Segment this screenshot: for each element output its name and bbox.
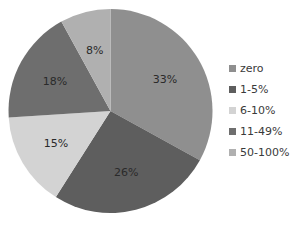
legend-label: zero xyxy=(240,62,264,75)
legend-item-11-49: 11-49% xyxy=(229,121,289,142)
slice-percent-label: 8% xyxy=(86,44,103,57)
legend-item-6-10: 6-10% xyxy=(229,100,289,121)
legend-swatch xyxy=(229,149,236,156)
slice-percent-label: 15% xyxy=(44,137,68,150)
slice-percent-label: 26% xyxy=(114,166,138,179)
legend-swatch xyxy=(229,86,236,93)
legend-swatch xyxy=(229,107,236,114)
legend-swatch xyxy=(229,128,236,135)
legend-label: 1-5% xyxy=(240,83,268,96)
legend-swatch xyxy=(229,65,236,72)
pie-slices xyxy=(9,9,213,213)
legend-item-50-100: 50-100% xyxy=(229,142,289,163)
slice-percent-label: 18% xyxy=(43,75,67,88)
chart-legend: zero 1-5% 6-10% 11-49% 50-100% xyxy=(229,58,289,163)
pie-chart: 33%26%15%18%8% xyxy=(0,0,225,225)
legend-item-1-5: 1-5% xyxy=(229,79,289,100)
legend-label: 11-49% xyxy=(240,125,282,138)
legend-label: 50-100% xyxy=(240,146,289,159)
legend-item-zero: zero xyxy=(229,58,289,79)
legend-label: 6-10% xyxy=(240,104,275,117)
slice-percent-label: 33% xyxy=(153,73,177,86)
